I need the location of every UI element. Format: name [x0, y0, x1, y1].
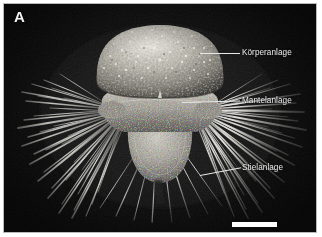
scale-bar: [232, 222, 277, 227]
annotation-label-mantelanlage: Mantelanlage: [242, 97, 292, 105]
micrograph-plate-frame: A Körperanlage Mantelanlage Stielanlage: [3, 3, 317, 233]
dome-specular: [114, 29, 174, 55]
figure-panel: A Körperanlage Mantelanlage Stielanlage: [0, 0, 322, 237]
panel-letter: A: [14, 9, 25, 24]
sem-micrograph-image: A Körperanlage Mantelanlage Stielanlage: [4, 4, 316, 232]
specimen-illustration: [4, 4, 316, 232]
annotation-label-korperanlage: Körperanlage: [242, 49, 292, 57]
mantelanlage-left-pad: [98, 101, 126, 119]
leader-line-korperanlage: [200, 53, 240, 54]
annotation-label-stielanlage: Stielanlage: [242, 164, 283, 172]
mantelanlage-right-pad: [194, 101, 222, 119]
